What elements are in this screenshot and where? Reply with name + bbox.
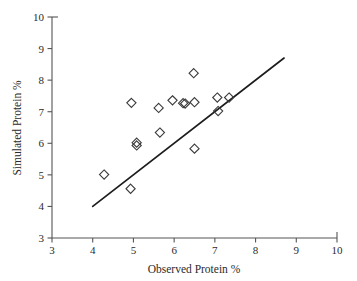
x-tick-label: 5	[131, 244, 137, 256]
scatter-plot-figure: 345678910 345678910 Observed Protein % S…	[0, 0, 357, 281]
data-point-marker	[213, 93, 222, 102]
data-point-marker	[132, 141, 141, 150]
y-tick-label: 10	[33, 11, 45, 23]
data-point-marker	[100, 170, 109, 179]
data-point-marker	[190, 144, 199, 153]
y-tick-label: 3	[39, 232, 45, 244]
data-point-marker	[189, 69, 198, 78]
data-point-marker	[132, 138, 141, 147]
data-point-marker	[155, 128, 164, 137]
y-tick-label: 5	[39, 169, 45, 181]
y-tick-label: 6	[39, 137, 45, 149]
y-tick-label: 7	[39, 106, 45, 118]
reference-line	[93, 58, 284, 206]
x-tick-label: 8	[253, 244, 259, 256]
x-tick-label: 9	[294, 244, 300, 256]
x-tick-labels: 345678910	[49, 244, 343, 256]
data-point-marker	[154, 103, 163, 112]
data-points	[100, 69, 234, 194]
x-tick-label: 7	[212, 244, 218, 256]
y-tick-labels: 345678910	[33, 11, 45, 244]
x-axis-title: Observed Protein %	[148, 263, 241, 275]
x-tick-label: 6	[171, 244, 177, 256]
x-tick-label: 3	[49, 244, 55, 256]
y-tick-label: 9	[39, 43, 45, 55]
y-tick-label: 8	[39, 74, 45, 86]
plot-canvas: 345678910 345678910 Observed Protein % S…	[0, 0, 357, 281]
x-tick-label: 4	[90, 244, 96, 256]
y-tick-label: 4	[39, 200, 45, 212]
identity-line	[93, 58, 284, 206]
data-point-marker	[190, 98, 199, 107]
data-point-marker	[127, 98, 136, 107]
x-tick-label: 10	[332, 244, 344, 256]
data-point-marker	[168, 96, 177, 105]
data-point-marker	[126, 184, 135, 193]
y-axis-title: Simulated Protein %	[11, 80, 23, 176]
